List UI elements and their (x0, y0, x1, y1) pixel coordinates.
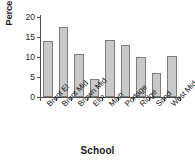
y-axis-tick-label: 15 (26, 32, 35, 42)
y-axis-title: Percent (2, 0, 16, 40)
y-axis-tick-mark (37, 17, 40, 18)
y-axis-tick-label: 5 (30, 72, 35, 82)
y-axis-tick-mark (37, 77, 40, 78)
y-axis-tick-mark (37, 37, 40, 38)
bar (43, 41, 53, 97)
y-axis-tick-mark (37, 57, 40, 58)
x-axis-tick-mark (40, 97, 41, 101)
y-axis-tick-label: 10 (26, 52, 35, 62)
x-axis-title: School (0, 145, 195, 156)
bar (105, 40, 115, 97)
bar-chart: Percent 05101520 Brent ElBrent MidBrown … (0, 0, 195, 162)
bar (121, 45, 131, 97)
y-axis-tick-label: 20 (26, 12, 35, 22)
y-axis-tick-label: 0 (30, 92, 35, 102)
